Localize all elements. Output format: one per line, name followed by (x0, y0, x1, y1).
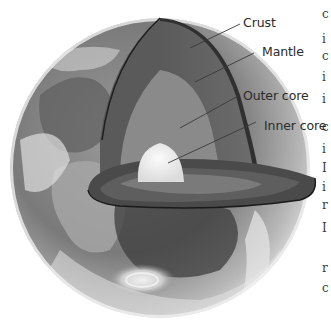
edge-glyph: c (322, 282, 329, 294)
edge-glyph: I (322, 162, 327, 174)
edge-glyph: c (322, 50, 329, 62)
edge-glyph: i (322, 93, 326, 105)
label-mantle: Mantle (262, 46, 304, 59)
edge-glyph: i (322, 33, 326, 45)
clipped-adjacent-text: c i c i i c i I i r I r c (322, 0, 331, 326)
edge-glyph: i (322, 143, 326, 155)
edge-glyph: i (322, 181, 326, 193)
edge-glyph: c (322, 121, 329, 133)
edge-glyph: c (322, 8, 329, 20)
edge-glyph: r (322, 199, 328, 211)
label-inner-core: Inner core (264, 120, 326, 133)
edge-glyph: r (322, 262, 328, 274)
edge-glyph: i (322, 71, 326, 83)
label-crust: Crust (243, 17, 276, 30)
edge-glyph: I (322, 222, 327, 234)
earth-layers-diagram: Crust Mantle Outer core Inner core c i c… (0, 0, 331, 326)
label-outer-core: Outer core (243, 90, 309, 103)
